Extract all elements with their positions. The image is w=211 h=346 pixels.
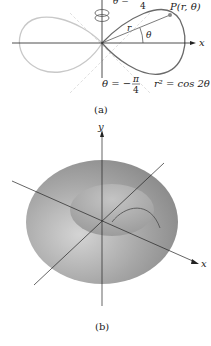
x-axis-arrow-icon-3d	[191, 259, 199, 264]
theta-label: θ	[146, 30, 152, 40]
angle-bottom-den: 4	[133, 85, 139, 95]
caption-a: (a)	[94, 104, 108, 115]
lemniscate-figure: θ = 4 P(r, θ) r θ x θ = − π 4 r² = cos 2…	[0, 0, 211, 346]
x-axis-label-3d: x	[201, 258, 207, 269]
angle-bottom-lhs: θ = −	[102, 78, 131, 89]
right-loop	[102, 10, 185, 75]
x-axis-arrow-icon	[190, 41, 196, 45]
equation-label: r² = cos 2θ	[154, 78, 210, 89]
angle-bottom-num: π	[132, 74, 140, 84]
r-label: r	[127, 23, 132, 33]
angle-top-den: 4	[140, 1, 146, 11]
torus-hole	[70, 184, 154, 236]
caption-b: (b)	[95, 321, 109, 332]
angle-top-label: θ =	[113, 0, 129, 6]
radius-line	[102, 15, 170, 43]
x-axis-label: x	[199, 37, 205, 48]
y-axis-label-3d: y	[97, 121, 104, 132]
angle-arc	[140, 28, 143, 43]
figure-a: θ = 4 P(r, θ) r θ x θ = − π 4 r² = cos 2…	[12, 0, 210, 115]
figure-b: y x (b)	[12, 121, 207, 332]
point-p	[168, 13, 172, 17]
point-label: P(r, θ)	[169, 1, 201, 12]
left-loop	[19, 17, 102, 72]
